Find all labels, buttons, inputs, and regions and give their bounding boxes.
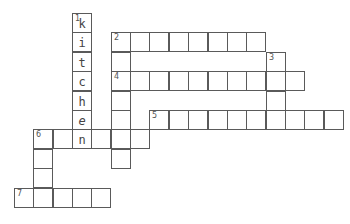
cell-letter: e xyxy=(73,114,91,128)
crossword-cell[interactable]: i xyxy=(72,32,92,52)
crossword-cell[interactable] xyxy=(130,32,150,52)
crossword-cell[interactable] xyxy=(169,110,189,130)
crossword-cell[interactable]: 6 xyxy=(33,129,53,149)
crossword-cell[interactable]: h xyxy=(72,91,92,111)
clue-number: 7 xyxy=(17,190,22,198)
crossword-cell[interactable] xyxy=(227,110,247,130)
crossword-cell[interactable] xyxy=(91,129,111,149)
crossword-cell[interactable] xyxy=(304,110,324,130)
crossword-cell[interactable]: 7 xyxy=(14,188,34,208)
crossword-cell[interactable] xyxy=(324,110,344,130)
cell-letter: n xyxy=(73,133,91,147)
crossword-cell[interactable] xyxy=(246,71,266,91)
crossword-cell[interactable] xyxy=(285,110,305,130)
clue-number: 3 xyxy=(269,54,274,62)
crossword-cell[interactable] xyxy=(130,129,150,149)
cell-letter: t xyxy=(73,56,91,70)
crossword-cell[interactable] xyxy=(208,71,228,91)
clue-number: 2 xyxy=(114,34,119,42)
crossword-cell[interactable] xyxy=(111,91,131,111)
crossword-cell[interactable]: 5 xyxy=(149,110,169,130)
clue-number: 4 xyxy=(114,73,119,81)
crossword-cell[interactable] xyxy=(149,32,169,52)
crossword-cell[interactable] xyxy=(285,71,305,91)
crossword-cell[interactable] xyxy=(188,32,208,52)
crossword-cell[interactable] xyxy=(208,32,228,52)
crossword-cell[interactable] xyxy=(111,149,131,169)
cell-letter: k xyxy=(73,17,91,31)
crossword-cell[interactable] xyxy=(72,188,92,208)
crossword-cell[interactable] xyxy=(33,188,53,208)
crossword-cell[interactable] xyxy=(188,110,208,130)
crossword-cell[interactable] xyxy=(266,91,286,111)
crossword-cell[interactable] xyxy=(111,52,131,72)
crossword-cell[interactable]: 1k xyxy=(72,13,92,33)
crossword-cell[interactable] xyxy=(227,71,247,91)
cell-letter: i xyxy=(73,36,91,50)
crossword-cell[interactable] xyxy=(246,110,266,130)
crossword-cell[interactable]: t xyxy=(72,52,92,72)
crossword-cell[interactable] xyxy=(111,110,131,130)
crossword-cell[interactable] xyxy=(53,129,73,149)
crossword-cell[interactable] xyxy=(266,71,286,91)
crossword-cell[interactable] xyxy=(169,71,189,91)
crossword-cell[interactable]: c xyxy=(72,71,92,91)
crossword-cell[interactable]: n xyxy=(72,129,92,149)
crossword-cell[interactable] xyxy=(266,110,286,130)
crossword-grid: 1kitchen234567 xyxy=(0,0,350,224)
crossword-cell[interactable] xyxy=(208,110,228,130)
crossword-cell[interactable] xyxy=(227,32,247,52)
clue-number: 5 xyxy=(152,112,157,120)
crossword-cell[interactable] xyxy=(33,168,53,188)
crossword-cell[interactable] xyxy=(188,71,208,91)
crossword-cell[interactable] xyxy=(53,188,73,208)
crossword-cell[interactable]: 3 xyxy=(266,52,286,72)
crossword-cell[interactable]: e xyxy=(72,110,92,130)
cell-letter: h xyxy=(73,95,91,109)
crossword-cell[interactable] xyxy=(246,32,266,52)
cell-letter: c xyxy=(73,75,91,89)
crossword-cell[interactable] xyxy=(149,71,169,91)
crossword-cell[interactable] xyxy=(33,149,53,169)
crossword-cell[interactable]: 4 xyxy=(111,71,131,91)
crossword-cell[interactable] xyxy=(111,129,131,149)
crossword-cell[interactable] xyxy=(91,188,111,208)
crossword-cell[interactable] xyxy=(169,32,189,52)
clue-number: 6 xyxy=(36,131,41,139)
crossword-cell[interactable]: 2 xyxy=(111,32,131,52)
crossword-cell[interactable] xyxy=(130,71,150,91)
